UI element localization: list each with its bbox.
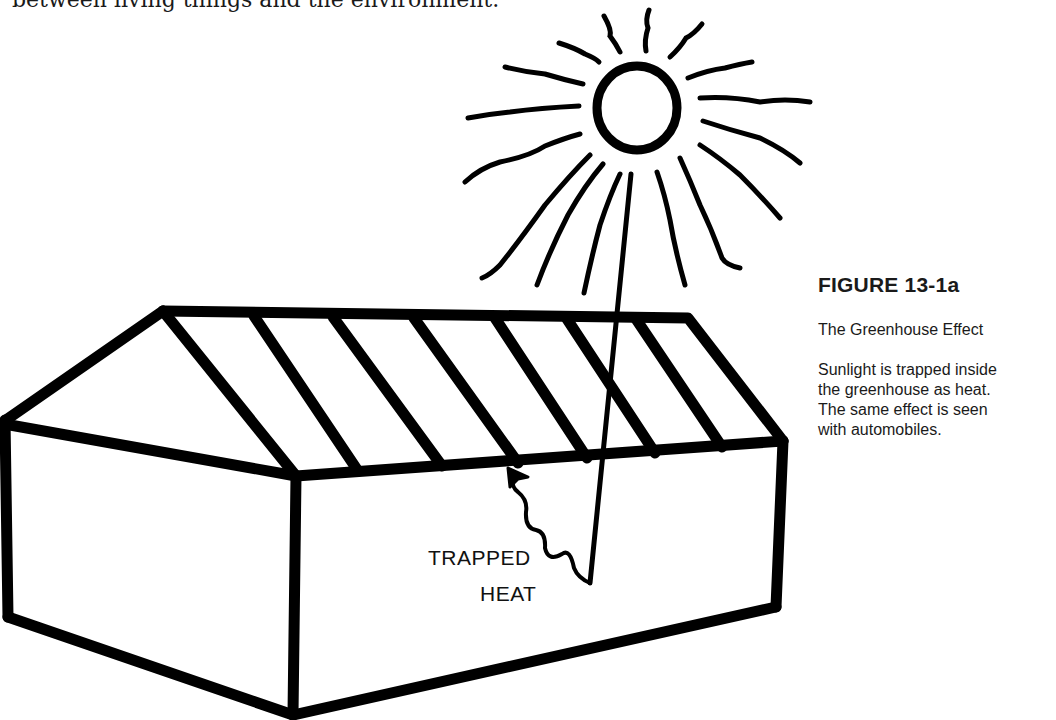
figure-description: Sunlight is trapped inside the greenhous… <box>818 360 1003 440</box>
sun-icon <box>465 10 810 583</box>
figure-title: The Greenhouse Effect <box>818 320 1056 340</box>
trapped-heat-label-line2: HEAT <box>480 583 536 605</box>
figure-caption: FIGURE 13-1a The Greenhouse Effect Sunli… <box>818 272 1056 440</box>
figure-number: FIGURE 13-1a <box>818 272 1056 298</box>
greenhouse-structure <box>5 311 783 715</box>
trapped-heat-label-line1: TRAPPED <box>428 547 531 569</box>
